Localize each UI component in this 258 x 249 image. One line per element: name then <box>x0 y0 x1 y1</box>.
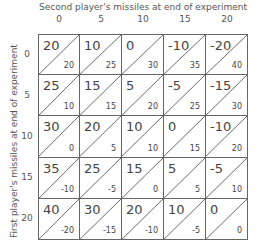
payoff-cell: 030 <box>122 34 164 75</box>
second-player-payoff: -10 <box>61 185 74 194</box>
payoff-cell: -1020 <box>206 116 248 157</box>
second-player-payoff: 20 <box>232 144 242 153</box>
second-player-payoff: 25 <box>190 102 200 111</box>
row-label: 0 <box>20 49 34 59</box>
payoff-cell: -510 <box>206 158 248 199</box>
payoff-cell: -525 <box>164 75 206 116</box>
column-label: 20 <box>206 14 248 24</box>
payoff-grid: 20201025030-1035-204025101515520-525-153… <box>38 34 248 240</box>
payoff-cell: 150 <box>122 158 164 199</box>
second-player-payoff: 10 <box>148 144 158 153</box>
second-player-payoff: -15 <box>103 226 116 235</box>
second-player-payoff: 20 <box>148 102 158 111</box>
second-player-payoff: 15 <box>106 102 116 111</box>
first-player-payoff: 35 <box>43 161 60 176</box>
row-axis-title: First player's missiles at end of experi… <box>9 41 19 241</box>
second-player-payoff: 5 <box>111 144 116 153</box>
column-label: 15 <box>164 14 206 24</box>
payoff-cell: 300 <box>38 116 80 157</box>
second-player-payoff: 40 <box>232 61 242 70</box>
payoff-cell: -2040 <box>206 34 248 75</box>
first-player-payoff: 15 <box>84 78 101 93</box>
first-player-payoff: -5 <box>210 161 223 176</box>
second-player-payoff: 25 <box>106 61 116 70</box>
row-label: 5 <box>20 90 34 100</box>
first-player-payoff: 5 <box>168 161 176 176</box>
payoff-cell: 25-5 <box>80 158 122 199</box>
payoff-cell: 55 <box>164 158 206 199</box>
first-player-payoff: 0 <box>168 119 176 134</box>
column-label: 0 <box>38 14 80 24</box>
second-player-payoff: -5 <box>192 226 200 235</box>
row-label: 20 <box>20 213 34 223</box>
second-player-payoff: -10 <box>145 226 158 235</box>
payoff-cell: -1530 <box>206 75 248 116</box>
first-player-payoff: 10 <box>84 38 101 53</box>
first-player-payoff: 15 <box>126 161 143 176</box>
first-player-payoff: 40 <box>43 202 60 217</box>
column-label: 10 <box>122 14 164 24</box>
payoff-cell: -1035 <box>164 34 206 75</box>
first-player-payoff: 30 <box>43 119 60 134</box>
first-player-payoff: 30 <box>84 202 101 217</box>
payoff-cell: 1515 <box>80 75 122 116</box>
payoff-cell: 2510 <box>38 75 80 116</box>
row-label: 15 <box>20 172 34 182</box>
row-label: 10 <box>20 131 34 141</box>
first-player-payoff: 5 <box>126 78 134 93</box>
first-player-payoff: 10 <box>168 202 185 217</box>
first-player-payoff: 10 <box>126 119 143 134</box>
first-player-payoff: 0 <box>210 202 218 217</box>
first-player-payoff: -20 <box>210 38 231 53</box>
payoff-cell: 1010 <box>122 116 164 157</box>
payoff-cell: 015 <box>164 116 206 157</box>
second-player-payoff: 10 <box>232 185 242 194</box>
second-player-payoff: 30 <box>232 102 242 111</box>
first-player-payoff: 20 <box>126 202 143 217</box>
second-player-payoff: 0 <box>153 185 158 194</box>
second-player-payoff: -20 <box>61 226 74 235</box>
first-player-payoff: 20 <box>43 38 60 53</box>
first-player-payoff: -5 <box>168 78 181 93</box>
second-player-payoff: -5 <box>108 185 116 194</box>
second-player-payoff: 0 <box>69 144 74 153</box>
payoff-cell: 1025 <box>80 34 122 75</box>
column-label: 5 <box>80 14 122 24</box>
second-player-payoff: 5 <box>195 185 200 194</box>
payoff-cell: 205 <box>80 116 122 157</box>
payoff-cell: 35-10 <box>38 158 80 199</box>
payoff-cell: 40-20 <box>38 199 80 240</box>
payoff-cell: 00 <box>206 199 248 240</box>
first-player-payoff: -15 <box>210 78 231 93</box>
second-player-payoff: 35 <box>190 61 200 70</box>
first-player-payoff: 20 <box>84 119 101 134</box>
first-player-payoff: 25 <box>84 161 101 176</box>
first-player-payoff: -10 <box>168 38 189 53</box>
column-axis-title: Second player's missiles at end of exper… <box>38 2 248 12</box>
first-player-payoff: 0 <box>126 38 134 53</box>
payoff-cell: 10-5 <box>164 199 206 240</box>
second-player-payoff: 15 <box>190 144 200 153</box>
payoff-cell: 2020 <box>38 34 80 75</box>
second-player-payoff: 20 <box>64 61 74 70</box>
payoff-cell: 30-15 <box>80 199 122 240</box>
second-player-payoff: 10 <box>64 102 74 111</box>
payoff-cell: 520 <box>122 75 164 116</box>
payoff-cell: 20-10 <box>122 199 164 240</box>
second-player-payoff: 0 <box>237 226 242 235</box>
first-player-payoff: -10 <box>210 119 231 134</box>
second-player-payoff: 30 <box>148 61 158 70</box>
first-player-payoff: 25 <box>43 78 60 93</box>
